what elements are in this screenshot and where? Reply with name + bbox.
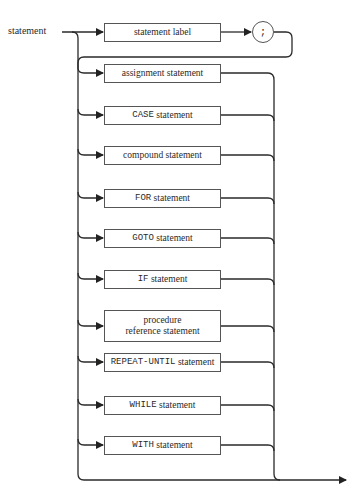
box-text: compound statement xyxy=(123,150,202,161)
box-text-line2: reference statement xyxy=(125,326,199,337)
assignment-statement-box: assignment statement xyxy=(104,64,221,83)
case-statement-box: CASE statement xyxy=(104,106,221,125)
entry-label: statement xyxy=(8,25,46,36)
box-keyword: WITH xyxy=(132,440,154,451)
semicolon-terminal: ; xyxy=(252,21,274,43)
while-statement-box: WHILE statement xyxy=(104,396,221,415)
box-keyword: REPEAT-UNTIL xyxy=(111,357,176,368)
for-statement-box: FOR statement xyxy=(104,189,221,208)
box-text: statement xyxy=(157,400,196,411)
box-text: statement xyxy=(149,274,188,285)
box-text: statement xyxy=(154,110,193,121)
statement-label-box: statement label xyxy=(104,23,221,42)
with-statement-box: WITH statement xyxy=(104,436,221,455)
goto-statement-box: GOTO statement xyxy=(104,229,221,248)
box-keyword: IF xyxy=(138,274,149,285)
box-text: statement xyxy=(154,440,193,451)
box-text-line1: procedure xyxy=(144,315,182,326)
box-keyword: FOR xyxy=(135,193,151,204)
box-text: statement label xyxy=(134,27,191,38)
compound-statement-box: compound statement xyxy=(104,146,221,165)
box-text: statement xyxy=(176,357,215,368)
procedure-reference-statement-box: procedure reference statement xyxy=(104,310,221,342)
box-keyword: CASE xyxy=(132,110,154,121)
if-statement-box: IF statement xyxy=(104,270,221,289)
box-text: statement xyxy=(154,233,193,244)
repeat-until-statement-box: REPEAT-UNTIL statement xyxy=(104,353,221,372)
box-keyword: WHILE xyxy=(130,400,157,411)
box-text: statement xyxy=(151,193,190,204)
box-keyword: GOTO xyxy=(132,233,154,244)
box-text: assignment statement xyxy=(122,68,204,79)
terminal-text: ; xyxy=(260,27,266,38)
